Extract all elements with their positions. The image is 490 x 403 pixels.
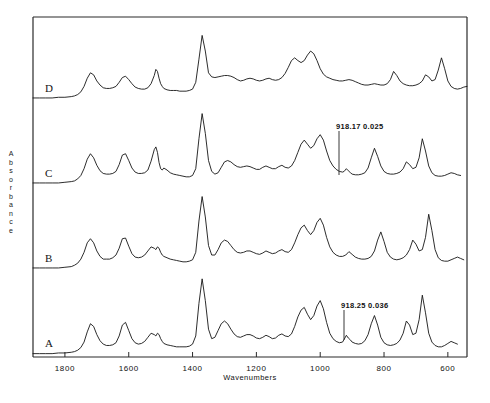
y-axis-title-char: r [4,184,18,193]
y-axis-title-char: a [4,201,18,210]
x-axis-tick-label: 600 [440,364,455,373]
spectrum-trace-b [33,197,464,268]
y-axis-title: A b s o r b a n c e [4,150,18,235]
trace-labels: DCBA [45,82,53,349]
y-axis-title-char: s [4,167,18,176]
trace-label-d: D [45,82,53,94]
x-axis-tick-label: 1600 [119,364,139,373]
spectra-traces [33,35,467,353]
spectra-figure: A b s o r b a n c e 18001600140012001000… [0,0,490,403]
annotation-c: 918.17 0.025 [336,122,383,131]
y-axis-title-char: n [4,210,18,219]
peak-annotations: 918.17 0.025918.25 0.036 [336,122,388,340]
y-axis-title-char: A [4,150,18,159]
spectra-plot: 18001600140012001000800600 DCBA 918.17 0… [0,0,490,403]
x-axis-tick-label: 1200 [246,364,266,373]
x-axis-tick-label: 1400 [182,364,202,373]
x-axis-ticks [65,352,448,357]
spectrum-trace-a [33,279,457,354]
x-axis-tick-label: 1000 [310,364,330,373]
spectrum-trace-d [33,35,467,98]
x-axis-tick-labels: 18001600140012001000800600 [55,364,456,373]
y-axis-title-char: o [4,176,18,185]
trace-label-c: C [45,167,52,179]
annotation-a: 918.25 0.036 [341,301,388,310]
y-axis-title-char: b [4,193,18,202]
x-axis-tick-label: 800 [376,364,391,373]
trace-label-b: B [45,252,52,264]
plot-frame [33,17,467,357]
y-axis-title-char: e [4,227,18,236]
trace-label-a: A [45,337,53,349]
y-axis-title-char: b [4,159,18,168]
spectrum-trace-c [33,114,461,183]
x-axis-title: Wavenumbers [223,373,277,382]
y-axis-title-char: c [4,218,18,227]
x-axis-tick-label: 1800 [55,364,75,373]
